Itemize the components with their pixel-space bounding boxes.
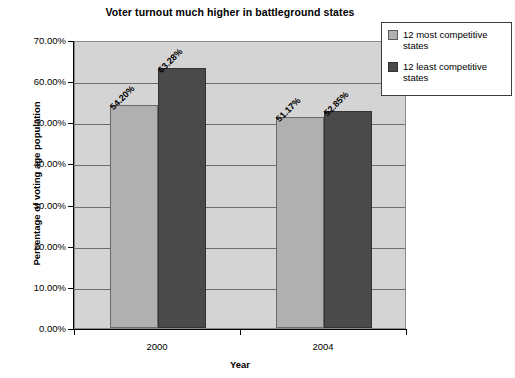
- chart-legend: 12 most competitive states12 least compe…: [381, 22, 512, 96]
- x-axis-category-label: 2004: [283, 341, 363, 352]
- plot-area: [74, 41, 406, 329]
- y-axis-title: Percentage of voting age population: [31, 69, 42, 299]
- bar: [276, 117, 324, 328]
- x-axis-category-label: 2000: [117, 341, 197, 352]
- bar: [324, 111, 372, 328]
- bar: [110, 105, 158, 328]
- x-axis-tick-mark: [74, 330, 75, 335]
- x-axis-tick-mark: [406, 330, 407, 335]
- x-axis-tick-mark: [240, 330, 241, 335]
- x-axis-title: Year: [74, 359, 406, 370]
- legend-label: 12 least competitive states: [403, 61, 506, 83]
- legend-swatch-icon: [388, 30, 398, 40]
- legend-label: 12 most competitive states: [403, 29, 506, 51]
- legend-entry: 12 least competitive states: [388, 61, 506, 83]
- gridline: [75, 83, 405, 84]
- legend-swatch-icon: [388, 62, 398, 72]
- y-axis-tick-label: 70.00%: [4, 36, 66, 46]
- chart-title: Voter turnout much higher in battlegroun…: [0, 6, 460, 18]
- bar: [158, 68, 206, 328]
- legend-entry: 12 most competitive states: [388, 29, 506, 51]
- y-axis-tick-label: 0.00%: [4, 324, 66, 334]
